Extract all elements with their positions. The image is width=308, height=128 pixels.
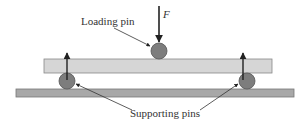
supporting-pins-label: Supporting pins [130,107,200,119]
loading-pin-leader [114,28,150,46]
specimen-beam [44,59,272,73]
three-point-bending-diagram: Loading pin F Supporting pins [0,0,308,128]
right-supporting-pin [239,73,255,89]
base-plate [16,89,294,97]
loading-pin-label: Loading pin [81,15,135,27]
loading-pin [151,43,167,59]
force-label: F [162,8,170,20]
diagram-svg: Loading pin F Supporting pins [0,0,308,128]
